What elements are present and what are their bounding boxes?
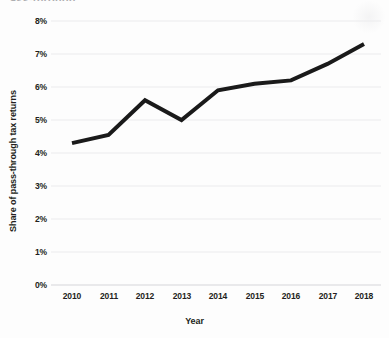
x-tick-label-2012: 2012 [128, 291, 162, 301]
line-chart-plot-area [0, 0, 389, 338]
y-tick-label-0: 0% [23, 280, 47, 290]
x-tick-label-2010: 2010 [55, 291, 89, 301]
y-tick-label-4: 4% [23, 148, 47, 158]
y-tick-label-2: 2% [23, 214, 47, 224]
y-tick-label-7: 7% [23, 49, 47, 59]
x-tick-label-2011: 2011 [92, 291, 126, 301]
y-tick-label-8: 8% [23, 16, 47, 26]
x-tick-label-2014: 2014 [201, 291, 235, 301]
data-series-line [72, 44, 364, 143]
y-tick-label-6: 6% [23, 82, 47, 92]
y-axis-title: Share of pass-through tax returns [8, 81, 18, 241]
chart-figure: ass-through 8% 7% 6% 5% 4% 3% 2% 1% 0% 2… [0, 0, 389, 338]
x-tick-label-2018: 2018 [347, 291, 381, 301]
x-axis-title: Year [0, 316, 389, 326]
x-tick-label-2017: 2017 [311, 291, 345, 301]
y-tick-label-5: 5% [23, 115, 47, 125]
y-tick-label-3: 3% [23, 181, 47, 191]
y-tick-label-1: 1% [23, 247, 47, 257]
x-tick-label-2016: 2016 [274, 291, 308, 301]
x-tick-label-2015: 2015 [238, 291, 272, 301]
x-tick-label-2013: 2013 [165, 291, 199, 301]
